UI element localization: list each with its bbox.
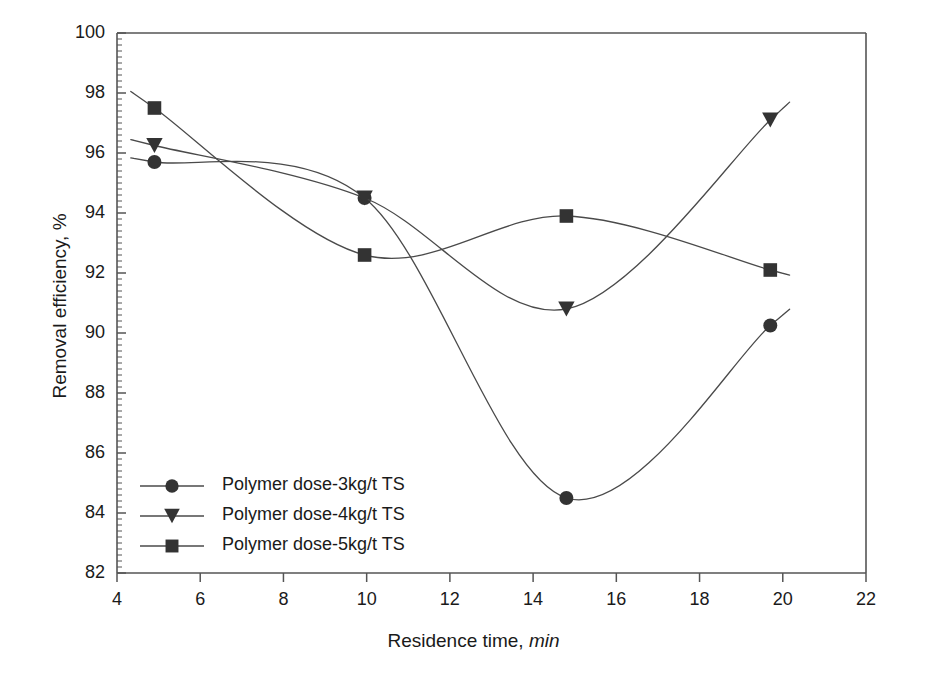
x-tick-label: 18 <box>677 589 723 610</box>
series-line <box>131 91 790 275</box>
data-marker-triangle-down <box>558 301 574 316</box>
data-marker-circle <box>559 491 573 505</box>
plot-canvas <box>0 0 947 689</box>
x-tick-label: 4 <box>94 589 140 610</box>
data-marker-square <box>166 540 179 553</box>
chart-figure: Residence time, min Removal efficiency, … <box>0 0 947 689</box>
x-tick-label: 22 <box>843 589 889 610</box>
series-line <box>131 102 790 310</box>
series-3 <box>131 91 790 276</box>
legend-label: Polymer dose-5kg/t TS <box>222 534 405 555</box>
y-tick-label: 96 <box>59 142 105 163</box>
x-axis-title: Residence time, min <box>0 630 947 652</box>
x-tick-label: 8 <box>260 589 306 610</box>
x-tick-label: 20 <box>760 589 806 610</box>
series-2 <box>131 102 790 316</box>
x-tick-label: 6 <box>177 589 223 610</box>
y-tick-label: 92 <box>59 262 105 283</box>
y-tick-label: 90 <box>59 322 105 343</box>
legend-label: Polymer dose-3kg/t TS <box>222 474 405 495</box>
y-tick-label: 84 <box>59 502 105 523</box>
y-tick-label: 88 <box>59 382 105 403</box>
legend <box>140 479 204 552</box>
series-1 <box>131 155 790 505</box>
y-tick-label: 82 <box>59 562 105 583</box>
x-axis-title-text: Residence time, <box>387 630 523 651</box>
y-tick-label: 94 <box>59 202 105 223</box>
data-marker-square <box>763 263 777 277</box>
x-tick-label: 14 <box>510 589 556 610</box>
y-tick-label: 98 <box>59 82 105 103</box>
x-tick-label: 10 <box>344 589 390 610</box>
data-marker-square <box>358 248 372 262</box>
x-tick-label: 16 <box>593 589 639 610</box>
x-tick-label: 12 <box>427 589 473 610</box>
legend-label: Polymer dose-4kg/t TS <box>222 504 405 525</box>
data-marker-square <box>560 209 574 223</box>
data-marker-triangle-down <box>146 138 162 153</box>
x-axis-title-unit: min <box>529 630 560 651</box>
y-tick-label: 86 <box>59 442 105 463</box>
data-marker-circle <box>147 155 161 169</box>
data-marker-circle <box>165 479 178 492</box>
data-marker-square <box>148 101 162 115</box>
y-tick-label: 100 <box>59 22 105 43</box>
data-marker-circle <box>763 319 777 333</box>
